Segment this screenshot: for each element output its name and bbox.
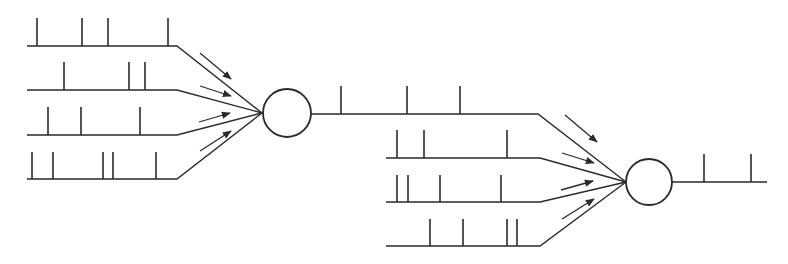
- neuron-circle: [626, 159, 672, 205]
- axon-line: [386, 182, 626, 246]
- input-spike-train: [27, 62, 262, 113]
- input-spike-train: [386, 130, 626, 182]
- arrows-layer: [199, 53, 597, 219]
- axon-line: [27, 113, 262, 179]
- direction-arrow-icon: [200, 53, 231, 79]
- axon-line: [27, 90, 262, 113]
- axon-line: [27, 113, 262, 135]
- neuron-circle: [263, 89, 311, 137]
- axon-line: [386, 182, 626, 202]
- output-spike-train: [672, 154, 767, 182]
- input-spike-train: [311, 86, 626, 182]
- direction-arrow-icon: [199, 113, 230, 122]
- direction-arrow-icon: [200, 86, 231, 96]
- input-spike-train: [27, 107, 262, 135]
- spike-trains-layer: [27, 18, 767, 246]
- direction-arrow-icon: [562, 153, 594, 163]
- spike-train-diagram: [0, 0, 788, 264]
- direction-arrow-icon: [561, 181, 593, 190]
- input-spike-train: [386, 182, 626, 246]
- neurons-layer: [262, 89, 672, 205]
- input-spike-train: [27, 113, 262, 179]
- axon-line: [311, 114, 626, 182]
- input-spike-train: [386, 175, 626, 202]
